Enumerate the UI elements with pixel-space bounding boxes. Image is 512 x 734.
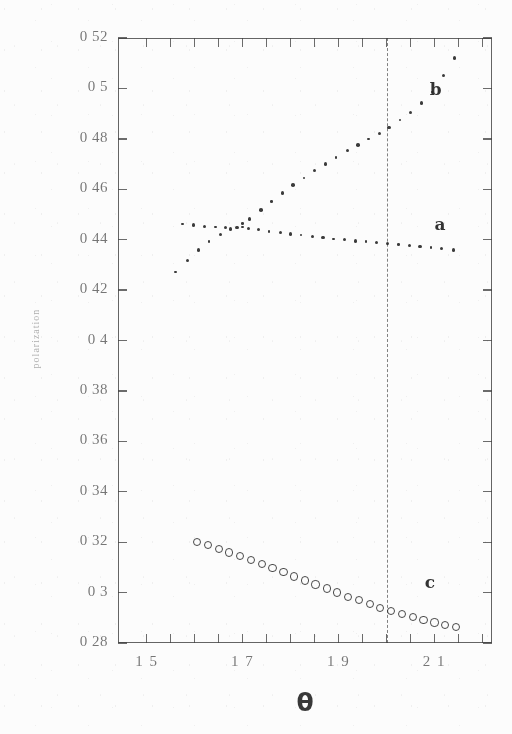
x-tick-label: 2 1: [394, 653, 474, 670]
y-tick: [483, 592, 492, 593]
y-tick-label: 0 5: [30, 78, 108, 95]
data-point: [354, 239, 358, 243]
x-tick: [458, 634, 459, 643]
x-tick: [218, 634, 219, 643]
x-tick: [362, 634, 363, 643]
data-point: [259, 208, 263, 212]
data-point: [387, 126, 391, 130]
data-point: [219, 233, 222, 236]
y-tick: [483, 138, 492, 139]
data-point: [418, 245, 422, 249]
x-tick: [314, 634, 315, 643]
y-tick: [118, 592, 127, 593]
y-tick: [118, 189, 127, 190]
x-tick: [314, 38, 315, 47]
y-tick-label: 0 48: [30, 129, 108, 146]
x-tick: [242, 634, 243, 643]
x-tick: [170, 38, 171, 47]
x-tick: [434, 38, 435, 47]
y-tick-label: 0 46: [30, 179, 108, 196]
y-tick: [483, 441, 492, 442]
series-label-a: a: [434, 214, 445, 234]
y-tick: [483, 542, 492, 543]
y-tick-label: 0 3: [30, 583, 108, 600]
data-point: [378, 132, 381, 135]
x-tick: [146, 38, 147, 47]
data-point: [344, 593, 352, 601]
y-tick: [483, 189, 492, 190]
data-point: [366, 600, 374, 608]
series-label-c: c: [425, 572, 435, 592]
plot-frame: [118, 38, 492, 643]
y-tick: [118, 390, 127, 391]
data-point: [204, 541, 212, 549]
y-axis-title: polarization: [30, 283, 41, 393]
x-tick-label: 1 9: [299, 653, 379, 670]
data-point: [247, 227, 250, 230]
y-tick: [483, 88, 492, 89]
y-tick-label: 0 4: [30, 331, 108, 348]
x-tick: [146, 634, 147, 643]
data-point: [311, 235, 314, 238]
data-point: [333, 588, 341, 596]
x-tick: [338, 38, 339, 47]
y-tick-label: 0 34: [30, 482, 108, 499]
data-point: [214, 226, 217, 229]
data-point: [409, 111, 412, 114]
y-tick: [483, 340, 492, 341]
series-label-b: b: [430, 79, 442, 99]
x-tick: [194, 38, 195, 47]
y-tick: [483, 289, 492, 290]
data-point: [235, 226, 239, 230]
y-tick: [118, 37, 127, 38]
data-point: [397, 243, 400, 246]
x-tick: [242, 38, 243, 47]
x-tick: [290, 634, 291, 643]
data-point: [225, 548, 233, 556]
y-tick-label: 0 38: [30, 381, 108, 398]
data-point: [241, 222, 244, 225]
y-tick: [483, 239, 492, 240]
x-tick-label: 1 7: [203, 653, 283, 670]
data-point: [279, 568, 287, 576]
y-tick-label: 0 52: [30, 28, 108, 45]
x-tick: [266, 634, 267, 643]
data-point: [174, 271, 177, 274]
y-tick-label: 0 32: [30, 532, 108, 549]
y-tick: [118, 138, 127, 139]
y-tick: [118, 491, 127, 492]
y-tick: [118, 542, 127, 543]
y-tick: [118, 441, 127, 442]
y-tick: [118, 340, 127, 341]
y-tick-label: 0 36: [30, 431, 108, 448]
data-point: [268, 564, 276, 572]
y-tick: [483, 642, 492, 643]
data-point: [279, 231, 282, 234]
data-point: [301, 576, 309, 584]
y-tick-label: 0 42: [30, 280, 108, 297]
x-tick: [482, 38, 483, 47]
x-axis-title: θ: [275, 688, 335, 717]
x-tick: [266, 38, 267, 47]
x-tick: [338, 634, 339, 643]
data-point: [367, 138, 370, 141]
data-point: [268, 230, 271, 233]
data-point: [281, 191, 284, 194]
x-tick: [218, 38, 219, 47]
data-point: [290, 572, 298, 580]
figure-container: 0 280 30 320 340 360 380 40 420 440 460 …: [0, 0, 512, 734]
y-tick-label: 0 44: [30, 230, 108, 247]
y-tick: [118, 88, 127, 89]
x-tick: [170, 634, 171, 643]
y-tick-label: 0 28: [30, 633, 108, 650]
x-tick: [362, 38, 363, 47]
data-point: [192, 223, 195, 226]
x-tick: [434, 634, 435, 643]
y-tick: [483, 390, 492, 391]
x-tick: [194, 634, 195, 643]
data-point: [365, 240, 368, 243]
data-point: [289, 232, 293, 236]
x-tick: [410, 38, 411, 47]
data-point: [270, 200, 273, 203]
data-point: [430, 618, 438, 626]
